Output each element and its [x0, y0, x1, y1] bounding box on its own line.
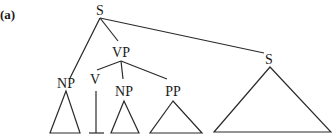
node-np-subject: NP [57, 76, 75, 91]
panel-label: (a) [0, 7, 15, 22]
node-pp: PP [165, 84, 181, 99]
node-v: V [90, 72, 100, 87]
np-object-triangle [111, 101, 139, 133]
syntax-tree-diagram: (a) S VP NP V NP PP S [0, 0, 332, 138]
node-s-embedded: S [265, 52, 273, 67]
np-subject-triangle [50, 91, 80, 133]
pp-triangle [150, 101, 202, 133]
edge-vp-pp [121, 61, 167, 79]
edge-vp-v [97, 61, 121, 70]
node-np-object: NP [115, 84, 133, 99]
edge-s-np [70, 18, 100, 78]
s-embedded-triangle [214, 67, 331, 132]
node-vp: VP [112, 45, 130, 60]
node-s-root: S [96, 3, 104, 18]
edge-vp-np [121, 61, 123, 79]
